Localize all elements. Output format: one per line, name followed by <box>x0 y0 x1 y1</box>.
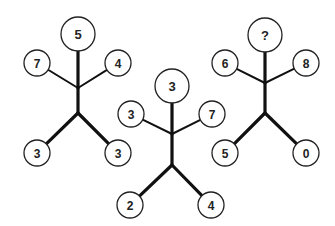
left-arm-line <box>237 69 265 83</box>
svg-text:6: 6 <box>222 57 229 71</box>
left-leg-line <box>46 113 78 144</box>
right-leg-line <box>172 165 202 196</box>
right-leg-line <box>265 113 297 144</box>
svg-text:2: 2 <box>127 199 134 213</box>
stick-figure-puzzle-diagram: 5 7 4 3 3 3 3 7 2 4 ? 6 <box>0 0 335 226</box>
left-leg-line <box>234 113 265 144</box>
svg-text:3: 3 <box>34 147 41 161</box>
svg-text:3: 3 <box>128 108 135 122</box>
right-leg-node: 0 <box>293 140 319 166</box>
right-arm-node: 4 <box>105 50 131 76</box>
svg-text:7: 7 <box>34 57 41 71</box>
left-leg-node: 3 <box>24 140 50 166</box>
head-node: 5 <box>61 17 95 51</box>
figure-2: 3 3 7 2 4 <box>117 69 225 218</box>
svg-text:8: 8 <box>303 57 310 71</box>
right-leg-node: 4 <box>198 192 224 218</box>
right-arm-line <box>78 70 107 88</box>
svg-text:5: 5 <box>222 147 229 161</box>
left-arm-node: 3 <box>118 101 144 127</box>
right-arm-line <box>172 120 200 134</box>
right-arm-node: 7 <box>199 101 225 127</box>
svg-text:3: 3 <box>168 79 175 94</box>
head-node: 3 <box>155 69 189 103</box>
svg-text:4: 4 <box>208 199 215 213</box>
puzzle-canvas: 5 7 4 3 3 3 3 7 2 4 ? 6 <box>0 0 335 226</box>
right-leg-node: 3 <box>105 140 131 166</box>
left-arm-node: 6 <box>212 50 238 76</box>
right-arm-node: 8 <box>293 50 319 76</box>
svg-text:3: 3 <box>115 147 122 161</box>
svg-text:?: ? <box>261 28 269 43</box>
left-leg-line <box>139 165 172 196</box>
left-arm-node: 7 <box>24 50 50 76</box>
head-node-unknown: ? <box>248 18 282 52</box>
left-arm-line <box>48 70 78 88</box>
figure-1: 5 7 4 3 3 <box>24 17 131 166</box>
left-arm-line <box>143 120 172 134</box>
right-leg-line <box>78 113 109 144</box>
left-leg-node: 2 <box>117 192 143 218</box>
svg-text:0: 0 <box>303 147 310 161</box>
right-arm-line <box>265 69 294 83</box>
svg-text:5: 5 <box>74 27 81 42</box>
left-leg-node: 5 <box>212 140 238 166</box>
svg-text:4: 4 <box>115 57 122 71</box>
figure-3: ? 6 8 5 0 <box>212 18 319 166</box>
svg-text:7: 7 <box>209 108 216 122</box>
